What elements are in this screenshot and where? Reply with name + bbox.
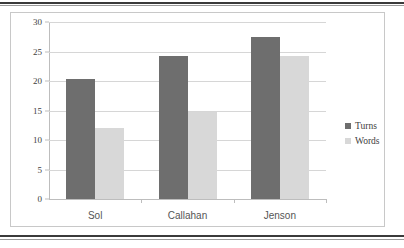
- y-tick-mark-10: [45, 140, 49, 141]
- y-tick-mark-15: [45, 110, 49, 111]
- legend-swatch-icon: [345, 123, 351, 129]
- y-axis-tick-label: 30: [33, 17, 42, 27]
- screenshot-canvas: 051015202530SolCallahanJenson TurnsWords: [0, 0, 404, 248]
- category-separator: [234, 199, 235, 203]
- bar-callahan-words: [188, 112, 217, 199]
- category-label-jenson: Jenson: [264, 210, 296, 221]
- bar-jenson-words: [280, 56, 309, 199]
- category-label-callahan: Callahan: [168, 210, 207, 221]
- bar-jenson-turns: [251, 37, 280, 199]
- gridline-25: [49, 52, 326, 53]
- category-label-sol: Sol: [88, 210, 102, 221]
- y-axis-tick-label: 25: [33, 47, 42, 57]
- chart-legend: TurnsWords: [345, 118, 380, 148]
- y-axis-tick-label: 0: [38, 194, 43, 204]
- gridline-0: [49, 199, 326, 200]
- category-separator: [141, 199, 142, 203]
- y-tick-mark-5: [45, 169, 49, 170]
- page-bottom-rule-thin: [0, 239, 404, 240]
- plot-area: 051015202530SolCallahanJenson: [49, 22, 326, 199]
- y-axis-tick-label: 10: [33, 135, 42, 145]
- page-top-rule: [0, 2, 404, 4]
- bar-callahan-turns: [159, 56, 188, 199]
- y-tick-mark-0: [45, 199, 49, 200]
- y-tick-mark-20: [45, 81, 49, 82]
- page-bottom-rule: [0, 235, 404, 237]
- legend-label: Turns: [355, 121, 377, 131]
- category-separator: [326, 199, 327, 203]
- legend-item-turns[interactable]: Turns: [345, 118, 380, 133]
- y-axis-tick-label: 15: [33, 106, 42, 116]
- y-tick-mark-30: [45, 22, 49, 23]
- page-top-rule-thin: [0, 5, 404, 6]
- gridline-30: [49, 22, 326, 23]
- legend-label: Words: [355, 136, 380, 146]
- y-axis-tick-label: 20: [33, 76, 42, 86]
- y-tick-mark-25: [45, 51, 49, 52]
- chart-frame: 051015202530SolCallahanJenson TurnsWords: [10, 12, 385, 227]
- bar-sol-turns: [66, 79, 95, 199]
- legend-item-words[interactable]: Words: [345, 133, 380, 148]
- legend-swatch-icon: [345, 138, 351, 144]
- y-axis-tick-label: 5: [38, 165, 43, 175]
- bar-sol-words: [95, 128, 124, 199]
